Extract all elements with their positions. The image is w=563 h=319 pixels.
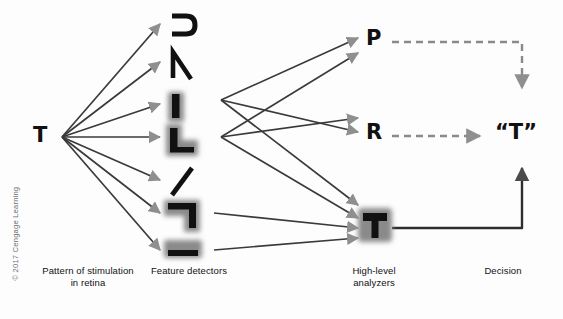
detector-icon-horizontal-bar <box>164 240 202 258</box>
stimulus-to-detectors-arrows <box>62 24 160 250</box>
arrow-horiz-to-t <box>214 238 358 250</box>
arrow-stimulus-to-angle <box>62 62 160 137</box>
arrow-cornerur-to-t <box>214 213 358 228</box>
arrow-stimulus-to-oblique <box>62 137 160 180</box>
caption-stimulus-line2: in retina <box>22 277 154 289</box>
detector-icon-diagonal <box>172 168 192 195</box>
copyright-notice: © 2017 Cengage Learning <box>11 185 20 281</box>
detector-icon-angle <box>173 52 191 79</box>
detector-icon-curve <box>172 16 195 34</box>
detector-icon-corner-reverse <box>164 200 200 232</box>
feature-detector-diagram: T P R “T” Pattern of stimulation in reti… <box>0 0 563 319</box>
analyzer-t-output-solid-path <box>392 168 522 228</box>
caption-analyzers-line1: High-level <box>318 265 430 277</box>
analyzer-letter-p: P <box>366 26 381 50</box>
arrow-vertical-to-p <box>221 38 358 100</box>
detector-icon-corner-gamma <box>166 124 198 156</box>
caption-detectors: Feature detectors <box>124 265 254 277</box>
caption-analyzers-line2: analyzers <box>318 277 430 289</box>
decision-output-label: “T” <box>495 120 537 144</box>
analyzer-p-output-dashed-path <box>392 42 522 88</box>
arrow-corner-to-t <box>221 137 358 218</box>
arrow-stimulus-to-horizontal <box>62 137 160 250</box>
detectors-to-analyzers-arrows <box>214 38 358 250</box>
arrow-stimulus-to-corner-ur <box>62 137 160 213</box>
analyzer-icon-t-shadowed <box>358 208 392 242</box>
caption-decision: Decision <box>455 265 551 277</box>
analyzer-letter-r: R <box>366 120 382 144</box>
arrow-corner-to-p <box>221 53 358 137</box>
detector-icon-vertical-bar <box>168 92 184 122</box>
caption-analyzers: High-level analyzers <box>318 265 430 289</box>
stimulus-letter-t: T <box>33 123 47 147</box>
